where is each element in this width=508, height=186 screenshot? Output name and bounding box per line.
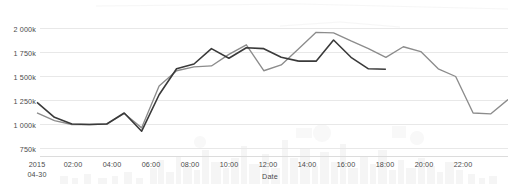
y-tick-label: 1 250k (2, 97, 36, 106)
x-tick-monthday: 04-30 (15, 170, 59, 180)
y-tick-label: 750k (2, 145, 36, 154)
x-tick-label: 16:00 (324, 160, 368, 169)
x-tick-label: 02:00 (51, 160, 95, 169)
plot-area (0, 0, 508, 186)
x-tick-label: 04:00 (90, 160, 134, 169)
series-line-dark (37, 40, 386, 131)
x-tick-label: 14:00 (285, 160, 329, 169)
x-tick-label: 12:00 (246, 160, 290, 169)
y-tick-label: 2 000k (2, 25, 36, 34)
x-tick-label: 08:00 (168, 160, 212, 169)
y-tick-label: 1 500k (2, 73, 36, 82)
x-tick-label: 20:00 (402, 160, 446, 169)
x-axis-title: Date (240, 172, 300, 181)
series-line-gray (37, 32, 508, 128)
x-tick-label: 10:00 (207, 160, 251, 169)
x-tick-label: 18:00 (363, 160, 407, 169)
x-tick-label: 06:00 (129, 160, 173, 169)
gridlines (40, 29, 508, 157)
y-tick-label: 1 000k (2, 121, 36, 130)
line-chart: 2 000k 1 750k 1 500k 1 250k 1 000k 750k … (0, 0, 508, 186)
y-tick-label: 1 750k (2, 49, 36, 58)
x-tick-label: 22:00 (441, 160, 485, 169)
